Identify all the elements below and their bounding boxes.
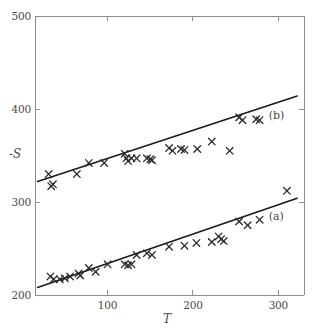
data-point-marker <box>181 242 188 249</box>
series-label-a: (a) <box>269 211 284 222</box>
x-axis-title: T <box>163 313 171 325</box>
data-point-marker <box>50 181 57 188</box>
data-point-marker <box>74 171 81 178</box>
data-point-marker <box>166 243 173 250</box>
data-point-marker <box>144 250 151 257</box>
y-tick-label: 200 <box>3 290 31 301</box>
series-label-b: (b) <box>269 110 285 121</box>
fit-line-a <box>38 198 298 287</box>
x-tick-label: 300 <box>258 300 298 311</box>
x-tick-label: 200 <box>173 300 213 311</box>
data-point-marker <box>92 268 99 275</box>
data-point-marker <box>45 171 52 178</box>
x-tick-label: 100 <box>88 300 128 311</box>
scatter-plot-figure: 200300400500 100200300 -S T (b)(a) <box>0 0 312 333</box>
data-point-marker <box>194 146 201 153</box>
y-tick-label: 300 <box>3 197 31 208</box>
fit-lines <box>38 96 298 288</box>
data-point-marker <box>256 216 263 223</box>
y-tick-label: 400 <box>3 104 31 115</box>
data-point-marker <box>169 148 176 155</box>
axes-frame <box>35 16 304 295</box>
data-point-marker <box>101 160 108 167</box>
data-point-marker <box>244 222 251 229</box>
data-point-marker <box>149 252 156 259</box>
data-point-marker <box>239 117 246 124</box>
y-tick-label: 500 <box>3 11 31 22</box>
data-point-marker <box>193 240 200 247</box>
plot-canvas <box>0 0 312 333</box>
fit-line-b <box>38 96 298 182</box>
data-point-marker <box>67 273 74 280</box>
y-axis-title: -S <box>9 148 21 160</box>
data-point-marker <box>208 239 215 246</box>
tick-marks <box>35 16 304 295</box>
data-point-marker <box>226 148 233 155</box>
data-point-marker <box>236 218 243 225</box>
data-point-marker <box>208 138 215 145</box>
data-point-marker <box>284 188 291 195</box>
data-point-marker <box>133 155 140 162</box>
data-point-marker <box>220 238 227 245</box>
